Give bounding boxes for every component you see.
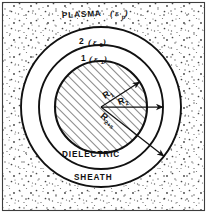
label-region-2-epsilon: ε [93, 37, 97, 47]
label-dielectric: DIELECTRIC [62, 150, 120, 159]
label-region-1-index: 1 [81, 53, 86, 63]
label-plasma-paren-close: ) [124, 8, 129, 18]
label-region-1-paren-close: ) [103, 54, 107, 64]
label-region-2-index: 2 [79, 36, 84, 46]
label-region-1-epsilon: ε [94, 54, 98, 64]
diagram-svg: PLASMA ( ε p ) 2 ( ε 0 ) 1 ( ε 1 ) R 1 [0, 0, 207, 213]
label-sheath: SHEATH [74, 173, 112, 182]
figure-container: PLASMA ( ε p ) 2 ( ε 0 ) 1 ( ε 1 ) R 1 [0, 0, 207, 213]
label-region-2-paren-close: ) [102, 37, 106, 47]
